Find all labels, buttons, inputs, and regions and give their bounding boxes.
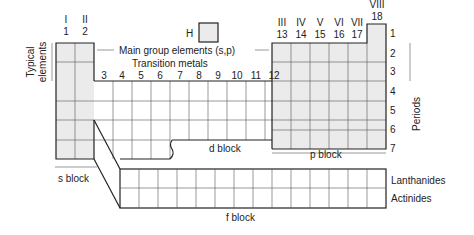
period-number-1: 1 [390,28,396,39]
f-block-grid [120,169,386,208]
group-number-16: 16 [333,29,345,40]
f-block-connector-bottom [94,159,120,208]
group-number-9: 9 [215,70,221,81]
roman-group-I: I [65,14,68,25]
roman-group-IV: IV [296,17,306,28]
group-number-12: 12 [268,70,280,81]
period-number-3: 3 [390,66,396,77]
roman-group-VI: VI [334,17,343,28]
period-number-7: 7 [390,143,396,154]
group-18-period-1-cell [367,24,386,43]
f-block-label: f block [226,212,256,223]
group-number-6: 6 [157,70,163,81]
period-number-4: 4 [390,86,396,97]
typical-elements-label-line2: elements [37,42,48,83]
hydrogen-box [199,23,218,42]
periods-label: Periods [411,97,422,131]
periodic-table-diagram: I II III IV V VI VII VIII 1 2 3 4 5 6 7 … [0,0,474,235]
d-block-label: d block [209,143,242,154]
roman-group-V: V [317,17,324,28]
group-number-10: 10 [231,70,243,81]
group-number-4: 4 [119,70,125,81]
roman-group-VIII: VIII [369,0,384,10]
period-number-6: 6 [390,124,396,135]
period-number-5: 5 [390,105,396,116]
roman-group-III: III [278,17,286,28]
group-number-1: 1 [63,26,69,37]
hydrogen-label: H [186,28,193,39]
group-number-18: 18 [371,11,383,22]
f-block-connector-top [94,120,120,169]
group-number-3: 3 [101,70,107,81]
main-group-label: Main group elements (s,p) [119,45,235,56]
group-number-2: 2 [82,26,88,37]
transition-metals-label: Transition metals [132,58,208,69]
group-number-11: 11 [251,70,262,81]
group-number-17: 17 [351,29,363,40]
group-number-13: 13 [276,29,288,40]
group-number-5: 5 [138,70,144,81]
typical-elements-label-line1: Typical [25,46,36,77]
period-number-2: 2 [390,48,396,59]
group-number-15: 15 [314,29,326,40]
d-block-grid [94,81,272,159]
group-number-14: 14 [295,29,307,40]
s-block-label: s block [58,173,90,184]
group-number-8: 8 [196,70,202,81]
p-block-label: p block [310,149,343,160]
roman-group-VII: VII [351,17,363,28]
group-number-7: 7 [177,70,183,81]
roman-group-II: II [82,14,88,25]
actinides-label: Actinides [391,193,432,204]
lanthanides-label: Lanthanides [391,175,446,186]
